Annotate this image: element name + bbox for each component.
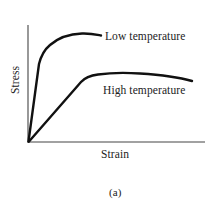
series-label-high-temperature: High temperature (103, 85, 185, 97)
stress-strain-figure: Low temperature High temperature Strain … (0, 0, 221, 201)
y-axis-label: Stress (10, 66, 22, 94)
curve-low-temperature (29, 33, 102, 141)
series-label-low-temperature: Low temperature (105, 31, 185, 43)
figure-caption: (a) (109, 187, 122, 198)
x-axis-label: Strain (101, 149, 129, 161)
